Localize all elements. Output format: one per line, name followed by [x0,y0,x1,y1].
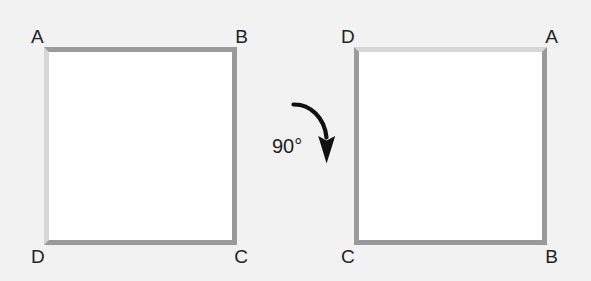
square-before-corner-bottom-left-label: D [31,247,45,266]
square-after-corner-top-right-label: A [532,27,558,46]
square-before-corner-top-left-label: A [31,27,44,46]
square-after-rotation [354,47,547,245]
square-after-corner-bottom-right-label: B [532,247,558,266]
square-before-corner-bottom-right-label: C [222,247,248,266]
rotation-angle-label: 90° [272,135,302,157]
square-before-rotation [44,47,237,245]
square-after-corner-bottom-left-label: C [341,247,355,266]
square-before-corner-top-right-label: B [222,27,248,46]
diagram-canvas: A B D C 90° D A C B [0,0,591,281]
rotation-arrow-icon [286,92,342,170]
square-after-corner-top-left-label: D [341,27,355,46]
